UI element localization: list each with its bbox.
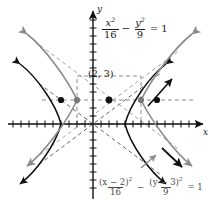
equation-gray-num-1: (x − 2)2: [97, 177, 134, 187]
y-axis-label: y: [97, 4, 102, 14]
equation-gray-fraction-1: (x − 2)2 16: [97, 177, 134, 197]
equation-black-operator: −: [122, 23, 130, 34]
equation-black-equals: = 1: [150, 23, 168, 34]
equation-black: x2 16 − y2 9 = 1: [101, 17, 170, 40]
equation-gray-num-2: (y − 3)2: [147, 177, 184, 187]
equation-gray: (x − 2)2 16 − (y − 3)2 9 = 1: [96, 177, 205, 197]
equation-black-fraction-1: x2 16: [102, 17, 119, 40]
equation-black-fraction-2: y2 9: [133, 17, 147, 40]
equation-gray-fraction-2: (y − 3)2 9: [147, 177, 184, 197]
x-axis-label: x: [203, 127, 208, 137]
equation-gray-den-2: 9: [161, 187, 170, 197]
vertex-dot-gray-left: [74, 97, 80, 103]
center-point-label: (2, 3): [88, 68, 114, 79]
equation-gray-operator: −: [137, 182, 144, 192]
vertex-dot-black-left: [58, 97, 64, 103]
vertex-dot-gray-right: [138, 97, 144, 103]
equation-black-den-2: 9: [135, 29, 145, 41]
hyperbola-figure: y x (2, 3) x2 16 − y2 9 = 1 (x − 2)2 16 …: [0, 0, 217, 206]
vertex-dot-black-right: [154, 97, 160, 103]
center-dot: [106, 97, 113, 104]
equation-gray-equals: = 1: [187, 182, 202, 192]
equation-black-den-1: 16: [102, 29, 119, 41]
equation-black-num-1: x2: [104, 17, 118, 29]
equation-black-num-2: y2: [133, 17, 147, 29]
equation-gray-den-1: 16: [108, 187, 123, 197]
